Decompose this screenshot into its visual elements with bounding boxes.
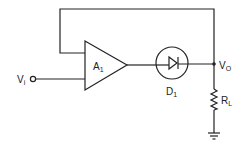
circuit-diagram: Vi A1 D1 VO RL xyxy=(0,0,246,151)
diode-d1-circle xyxy=(156,47,188,79)
load-label: RL xyxy=(221,95,232,107)
diode-label: D1 xyxy=(166,86,177,98)
feedback-wire xyxy=(60,9,214,64)
resistor-rl xyxy=(211,89,217,110)
input-terminal xyxy=(30,76,35,81)
diode-d1-symbol xyxy=(169,57,177,69)
op-amp-a1 xyxy=(85,41,127,90)
output-label: VO xyxy=(219,60,232,72)
input-label: Vi xyxy=(17,74,26,86)
output-node xyxy=(212,62,216,66)
